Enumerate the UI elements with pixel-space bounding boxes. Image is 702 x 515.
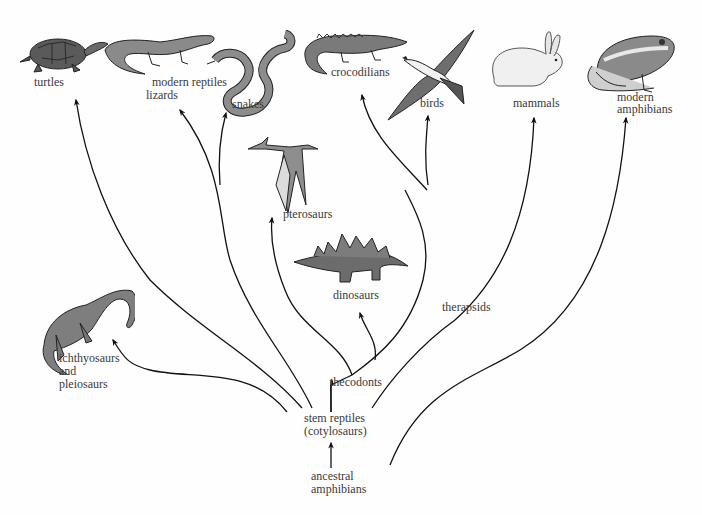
label-ancestral-amphibians-2: amphibians bbox=[311, 483, 366, 496]
edge-to-ichthyosaurs bbox=[113, 340, 287, 412]
edge-to-snakes bbox=[219, 113, 226, 185]
label-snakes: snakes bbox=[232, 98, 264, 111]
stegosaurus-illustration bbox=[292, 230, 410, 285]
phylogeny-diagram: turtles modern reptiles lizards snakes c… bbox=[0, 0, 702, 515]
label-pterosaurs: pterosaurs bbox=[283, 208, 332, 221]
lizard-illustration bbox=[100, 30, 218, 78]
turtle-illustration bbox=[18, 34, 110, 74]
edge-to-modern-amphibians bbox=[390, 118, 626, 465]
label-lizards: lizards bbox=[146, 89, 178, 102]
label-ichthyosaurs-3: pleiosaurs bbox=[59, 378, 108, 391]
label-birds: birds bbox=[420, 97, 444, 110]
label-mammals: mammals bbox=[513, 97, 560, 110]
label-stem-reptiles-2: (cotylosaurs) bbox=[304, 425, 367, 438]
rabbit-illustration bbox=[488, 28, 573, 88]
label-modern-amphibians-2: amphibians bbox=[617, 103, 672, 116]
label-dinosaurs: dinosaurs bbox=[333, 289, 379, 302]
edge-to-dinosaurs bbox=[360, 313, 375, 360]
edge-to-birds bbox=[426, 116, 428, 185]
label-crocodilians: crocodilians bbox=[331, 66, 390, 79]
pterosaur-illustration bbox=[246, 135, 326, 215]
label-turtles: turtles bbox=[34, 76, 64, 89]
label-therapsids: therapsids bbox=[442, 301, 491, 314]
label-thecodonts: thecodonts bbox=[330, 376, 382, 389]
frog-illustration bbox=[582, 30, 678, 96]
edge-to-mammals bbox=[455, 118, 534, 320]
